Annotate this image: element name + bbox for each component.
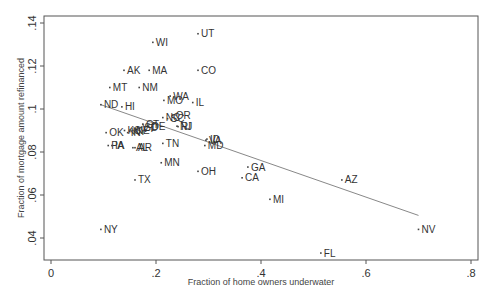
data-point-ma: MA	[148, 65, 167, 76]
y-tick-label: .12	[26, 58, 38, 73]
point-marker	[105, 132, 107, 134]
point-marker	[109, 87, 111, 89]
y-tick-label: .08	[26, 144, 38, 159]
point-label: HI	[125, 101, 135, 112]
y-axis-title: Fraction of mortgage amount refinanced	[16, 58, 26, 218]
x-tick-label: 0	[48, 267, 54, 279]
point-label: OK	[109, 127, 124, 138]
point-marker	[247, 166, 249, 168]
y-tick-label: .14	[26, 15, 38, 30]
point-label: NM	[142, 82, 158, 93]
point-marker	[418, 229, 420, 231]
point-label: WI	[156, 37, 168, 48]
point-marker	[148, 70, 150, 72]
data-point-nm: NM	[138, 82, 157, 93]
point-marker	[197, 70, 199, 72]
x-tick-label: .8	[466, 267, 475, 279]
point-marker	[162, 117, 164, 119]
point-label: MA	[152, 65, 167, 76]
point-label: AR	[138, 142, 152, 153]
point-marker	[197, 33, 199, 35]
point-label: MD	[208, 140, 224, 151]
point-label: NV	[422, 224, 436, 235]
point-marker	[152, 42, 154, 44]
point-marker	[100, 104, 102, 106]
point-marker	[132, 147, 134, 149]
point-label: RI	[181, 121, 191, 132]
x-axis-title: Fraction of home owners underwater	[188, 277, 335, 287]
point-label: MT	[113, 82, 127, 93]
point-marker	[320, 252, 322, 254]
data-point-md: MD	[204, 140, 223, 151]
point-marker	[163, 100, 165, 102]
point-marker	[197, 171, 199, 173]
point-marker	[241, 177, 243, 179]
point-label: CA	[245, 172, 259, 183]
point-label: NY	[104, 224, 118, 235]
point-marker	[160, 162, 162, 164]
data-point-co: CO	[197, 65, 216, 76]
point-marker	[205, 139, 207, 141]
point-marker	[177, 126, 179, 128]
data-point-or: OR	[172, 110, 191, 121]
point-marker	[132, 130, 134, 132]
point-marker	[192, 102, 194, 104]
point-label: OR	[176, 110, 191, 121]
point-marker	[172, 115, 174, 117]
data-point-mo: MO	[163, 95, 183, 106]
x-tick-label: .2	[151, 267, 160, 279]
point-marker	[167, 118, 169, 120]
scatter-chart: 0.2.4.6.8 .04.06.08.1.12.14 UTWIAKMACOMT…	[0, 0, 496, 301]
point-label: FL	[324, 248, 336, 259]
point-marker	[134, 179, 136, 181]
point-marker	[204, 145, 206, 147]
point-label: TX	[138, 174, 151, 185]
data-point-oh: OH	[197, 166, 216, 177]
point-label: MO	[167, 95, 183, 106]
point-marker	[111, 145, 113, 147]
point-marker	[127, 132, 129, 134]
point-marker	[107, 145, 109, 147]
point-marker	[129, 131, 131, 133]
point-marker	[121, 106, 123, 108]
point-marker	[124, 130, 126, 132]
y-tick-label: .06	[26, 187, 38, 202]
point-label: TN	[166, 138, 179, 149]
point-label: CO	[201, 65, 216, 76]
point-label: GA	[251, 162, 266, 173]
point-label: MI	[273, 194, 284, 205]
point-label: OH	[201, 166, 216, 177]
point-marker	[123, 70, 125, 72]
point-label: IL	[196, 97, 205, 108]
y-tick-label: .04	[26, 230, 38, 245]
point-label: UT	[201, 28, 214, 39]
point-label: NE	[136, 125, 150, 136]
point-marker	[134, 147, 136, 149]
x-tick-label: .6	[361, 267, 370, 279]
point-marker	[100, 229, 102, 231]
point-marker	[341, 179, 343, 181]
point-marker	[162, 143, 164, 145]
point-label: AK	[127, 65, 141, 76]
data-point-mn: MN	[160, 157, 179, 168]
point-marker	[138, 87, 140, 89]
point-marker	[269, 199, 271, 201]
point-label: AZ	[345, 174, 358, 185]
chart-background	[0, 0, 496, 301]
point-label: MN	[164, 157, 180, 168]
point-label: ND	[104, 99, 118, 110]
point-label: IA	[115, 140, 125, 151]
y-tick-label: .1	[26, 104, 38, 113]
